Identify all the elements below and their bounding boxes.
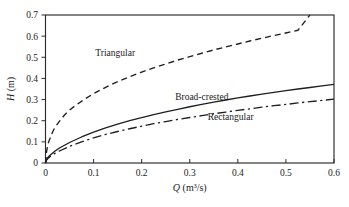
y-axis-tick-labels: 00.10.20.30.40.50.60.7 xyxy=(26,10,38,168)
y-tick-label: 0 xyxy=(33,158,38,168)
x-axis-units: (m³/s) xyxy=(180,182,207,194)
y-tick-label: 0.7 xyxy=(26,10,38,20)
series-curve-triangular xyxy=(46,15,310,163)
y-tick-label: 0.4 xyxy=(26,74,38,84)
y-tick-label: 0.5 xyxy=(26,53,38,63)
data-series-curves xyxy=(46,15,335,163)
y-tick-label: 0.1 xyxy=(26,137,38,147)
x-tick-label: 0.6 xyxy=(328,168,340,178)
plot-frame-box xyxy=(46,15,335,163)
x-axis-ticks xyxy=(46,159,335,163)
y-axis-title: H (m) xyxy=(5,77,17,102)
chart-figure: 00.10.20.30.40.50.6 00.10.20.30.40.50.60… xyxy=(0,0,349,207)
series-curve-rectangular xyxy=(46,99,335,163)
x-tick-label: 0.4 xyxy=(232,168,244,178)
x-axis-title: Q (m³/s) xyxy=(173,182,207,194)
series-label-triangular: Triangular xyxy=(95,48,136,58)
x-tick-label: 0.2 xyxy=(136,168,148,178)
chart-plot-area: 00.10.20.30.40.50.6 00.10.20.30.40.50.60… xyxy=(0,0,349,207)
series-label-rectangular: Rectangular xyxy=(208,112,255,122)
series-inline-labels: TriangularBroad-crestedRectangular xyxy=(95,48,254,121)
x-tick-label: 0.1 xyxy=(88,168,100,178)
x-tick-label: 0.5 xyxy=(280,168,292,178)
y-tick-label: 0.3 xyxy=(26,95,38,105)
y-axis-ticks xyxy=(42,15,46,163)
x-tick-label: 0 xyxy=(43,168,48,178)
series-label-broad-crested: Broad-crested xyxy=(175,92,229,102)
svg-text:H (m): H (m) xyxy=(5,77,17,102)
svg-text:Q (m³/s): Q (m³/s) xyxy=(173,182,207,194)
y-tick-label: 0.2 xyxy=(26,116,38,126)
y-axis-units: (m) xyxy=(5,77,17,94)
plot-frame xyxy=(46,15,335,163)
x-axis-tick-labels: 00.10.20.30.40.50.6 xyxy=(43,168,340,178)
y-tick-label: 0.6 xyxy=(26,32,38,42)
x-tick-label: 0.3 xyxy=(184,168,196,178)
